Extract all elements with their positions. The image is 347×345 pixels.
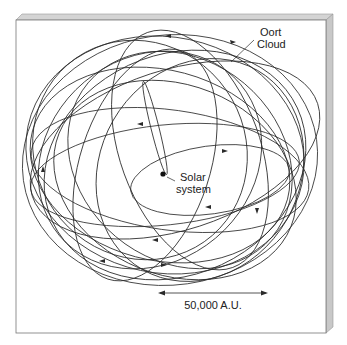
oort-cloud-diagram: Solar system Oort Cloud 50,000 A.U. (0, 0, 347, 345)
oort-label-line1: Oort (260, 26, 281, 38)
oort-label-line2: Cloud (257, 38, 286, 50)
box-top-bevel (16, 14, 333, 20)
scale-label: 50,000 A.U. (184, 299, 242, 311)
box-side-bevel (326, 14, 333, 333)
box-front-face (16, 20, 326, 333)
solar-system-dot (160, 171, 165, 176)
solar-label-line2: system (176, 183, 211, 195)
solar-label-line1: Solar (180, 171, 206, 183)
